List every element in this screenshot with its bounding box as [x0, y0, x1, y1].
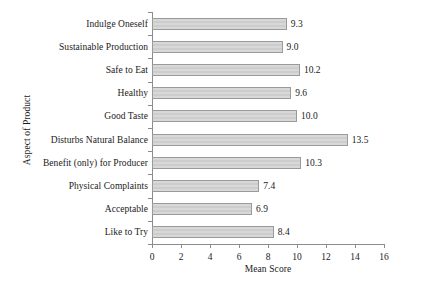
bar-value-label: 9.3: [291, 18, 303, 30]
y-axis-tick: [148, 12, 152, 13]
y-axis-tick: [148, 105, 152, 106]
bar: [152, 41, 283, 53]
x-axis-tick: [239, 244, 240, 248]
y-axis-tick: [148, 244, 152, 245]
x-axis-tick: [152, 244, 153, 248]
x-axis-tick: [326, 244, 327, 248]
x-axis-tick-label: 16: [372, 252, 396, 262]
x-axis-tick-label: 6: [227, 252, 251, 262]
category-label: Disturbs Natural Balance: [18, 135, 148, 145]
x-axis-tick-label: 2: [169, 252, 193, 262]
bar-value-label: 9.0: [287, 41, 299, 53]
x-axis-tick-label: 12: [314, 252, 338, 262]
y-axis-tick: [148, 128, 152, 129]
category-label: Good Taste: [18, 111, 148, 121]
bar: [152, 157, 301, 169]
bar-value-label: 13.5: [352, 134, 369, 146]
x-axis-title: Mean Score: [152, 264, 384, 274]
y-axis-tick: [148, 82, 152, 83]
y-axis-tick: [148, 174, 152, 175]
y-axis-tick: [148, 35, 152, 36]
x-axis-tick-label: 10: [285, 252, 309, 262]
category-label: Physical Complaints: [18, 181, 148, 191]
x-axis-tick-label: 0: [140, 252, 164, 262]
y-axis-tick: [148, 151, 152, 152]
category-label: Benefit (only) for Producer: [18, 158, 148, 168]
category-label: Like to Try: [18, 227, 148, 237]
y-axis-tick: [148, 198, 152, 199]
bar: [152, 134, 348, 146]
category-axis-labels: Indulge OneselfSustainable ProductionSaf…: [18, 12, 148, 244]
plot-area: 02468101214169.39.010.29.610.013.510.37.…: [152, 12, 384, 244]
bar-chart: Aspect of Product Indulge OneselfSustain…: [0, 0, 428, 295]
x-axis-tick: [355, 244, 356, 248]
bar: [152, 87, 291, 99]
bar-value-label: 9.6: [295, 87, 307, 99]
category-label: Acceptable: [18, 204, 148, 214]
y-axis-tick: [148, 58, 152, 59]
bar-value-label: 8.4: [278, 226, 290, 238]
category-label: Indulge Oneself: [18, 19, 148, 29]
x-axis-tick: [268, 244, 269, 248]
bar-value-label: 10.0: [301, 110, 318, 122]
bar: [152, 18, 287, 30]
bar: [152, 180, 259, 192]
bar: [152, 110, 297, 122]
bar: [152, 203, 252, 215]
bar-value-label: 10.2: [304, 64, 321, 76]
category-label: Safe to Eat: [18, 65, 148, 75]
x-axis-tick-label: 4: [198, 252, 222, 262]
bar: [152, 64, 300, 76]
x-axis-tick-label: 14: [343, 252, 367, 262]
y-axis-tick: [148, 221, 152, 222]
x-axis-tick: [297, 244, 298, 248]
bar-value-label: 7.4: [263, 180, 275, 192]
x-axis-tick: [181, 244, 182, 248]
bar-value-label: 6.9: [256, 203, 268, 215]
category-label: Sustainable Production: [18, 42, 148, 52]
x-axis-tick: [384, 244, 385, 248]
x-axis-tick: [210, 244, 211, 248]
x-axis-tick-label: 8: [256, 252, 280, 262]
bar-value-label: 10.3: [305, 157, 322, 169]
category-label: Healthy: [18, 88, 148, 98]
bar: [152, 226, 274, 238]
